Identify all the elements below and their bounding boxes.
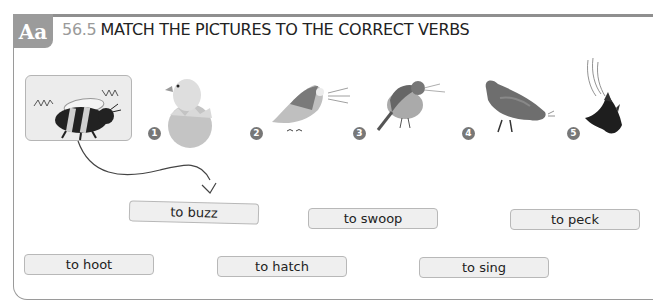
verb-option-to-hatch[interactable]: to hatch <box>217 256 347 277</box>
verb-option-to-swoop[interactable]: to swoop <box>308 208 438 229</box>
verb-option-to-peck[interactable]: to peck <box>510 209 640 230</box>
verb-option-to-hoot[interactable]: to hoot <box>24 254 154 275</box>
verb-option-to-sing[interactable]: to sing <box>419 257 549 278</box>
verb-option-to-buzz[interactable]: to buzz <box>129 200 260 224</box>
